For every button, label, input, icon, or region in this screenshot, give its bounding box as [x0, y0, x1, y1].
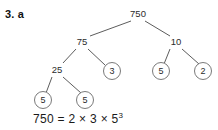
edge-25-to-5-right [63, 77, 81, 93]
node-root-750: 750 [130, 8, 146, 19]
edge-75-to-3 [88, 49, 105, 65]
equation-exponent: 3 [119, 111, 124, 120]
edge-10-to-5 [164, 49, 170, 64]
edge-25-to-5-left [46, 77, 52, 93]
equation-base: 750 = 2 × 3 × 5 [33, 112, 119, 126]
factorisation-equation: 750 = 2 × 3 × 53 [33, 111, 123, 126]
node-5-right: 5 [158, 66, 163, 76]
edge-10-to-2 [182, 49, 199, 64]
node-75: 75 [77, 36, 88, 47]
node-3: 3 [109, 66, 114, 76]
node-10: 10 [171, 36, 182, 47]
edge-75-to-25 [63, 49, 76, 63]
node-5-lower-right: 5 [82, 95, 87, 105]
node-2: 2 [200, 66, 205, 76]
edge-root-to-10 [145, 21, 170, 36]
node-5-lower-left: 5 [40, 95, 45, 105]
node-25: 25 [52, 64, 63, 75]
edge-root-to-75 [90, 21, 131, 36]
factor-tree-exercise: 3. a 750 75 10 25 3 5 2 5 5 750 = 2 × 3 … [0, 0, 218, 130]
